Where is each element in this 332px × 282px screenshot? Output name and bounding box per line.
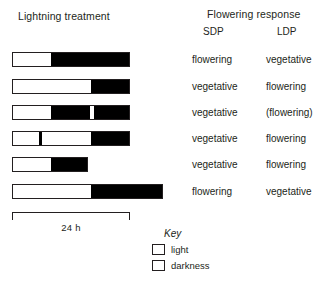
- response-ldp: vegetative: [266, 54, 312, 65]
- treatment-bar: [12, 52, 130, 67]
- treatment-bar: [12, 79, 130, 94]
- response-ldp: flowering: [266, 81, 306, 92]
- page-title-flowering-response: Flowering response: [207, 8, 300, 20]
- timescale-tick-end: [129, 212, 130, 220]
- bar-segment-dark: [91, 185, 163, 198]
- response-ldp: vegetative: [266, 186, 312, 197]
- bar-segment-dark: [94, 106, 130, 119]
- legend-label: darkness: [171, 260, 210, 271]
- treatment-bar: [12, 157, 88, 172]
- bar-segment-light: [13, 158, 51, 171]
- legend-swatch-light: [152, 244, 165, 255]
- response-sdp: flowering: [192, 186, 232, 197]
- bar-segment-dark: [91, 132, 130, 145]
- bar-segment-light: [42, 132, 91, 145]
- bar-segment-light: [13, 132, 39, 145]
- treatment-bar-chart: [0, 0, 200, 210]
- response-sdp: flowering: [192, 54, 232, 65]
- response-ldp: (flowering): [266, 107, 313, 118]
- timescale-rail: [12, 212, 130, 213]
- bar-segment-light: [13, 80, 91, 93]
- legend-swatch-darkness: [152, 260, 165, 271]
- treatment-bar: [12, 184, 163, 199]
- response-sdp: vegetative: [192, 81, 238, 92]
- response-sdp: vegetative: [192, 159, 238, 170]
- legend-label: light: [171, 244, 188, 255]
- timescale-bracket: [12, 212, 130, 221]
- bar-segment-light: [13, 185, 91, 198]
- legend-title: Key: [164, 228, 181, 239]
- bar-segment-dark: [51, 158, 88, 171]
- column-header-ldp: LDP: [277, 26, 296, 37]
- bar-segment-light: [13, 106, 51, 119]
- bar-segment-dark: [51, 53, 130, 66]
- response-ldp: flowering: [266, 159, 306, 170]
- response-sdp: vegetative: [192, 107, 238, 118]
- timescale-label: 24 h: [12, 222, 130, 233]
- bar-segment-dark: [91, 80, 130, 93]
- response-ldp: flowering: [266, 133, 306, 144]
- bar-segment-dark: [51, 106, 90, 119]
- treatment-bar: [12, 105, 130, 120]
- column-header-sdp: SDP: [203, 26, 224, 37]
- treatment-bar: [12, 131, 130, 146]
- response-sdp: vegetative: [192, 133, 238, 144]
- bar-segment-light: [13, 53, 51, 66]
- timescale-tick-start: [12, 212, 13, 220]
